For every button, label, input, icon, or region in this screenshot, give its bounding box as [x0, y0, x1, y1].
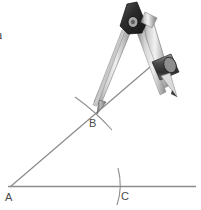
- construction-diagram: A B C: [0, 0, 201, 210]
- drafting-compass: [93, 2, 179, 114]
- point-label-C: C: [121, 190, 129, 202]
- compass-needle-leg: [94, 26, 133, 114]
- ray-AB: [10, 61, 157, 187]
- compass-hinge: [120, 2, 146, 34]
- point-label-A: A: [5, 191, 13, 203]
- point-label-B: B: [89, 117, 96, 129]
- geometry-construction-figure: tion dle: [0, 0, 201, 210]
- compass-needle-strut: [93, 29, 126, 106]
